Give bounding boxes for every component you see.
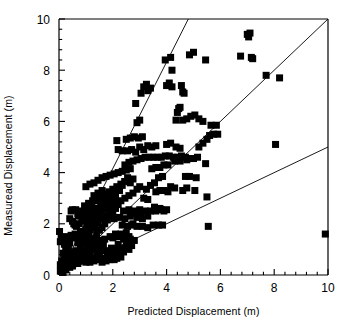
data-point [178,82,185,89]
data-point [203,193,210,200]
x-tick-label: 10 [321,281,335,295]
data-point [272,141,279,148]
y-tick-label: 10 [37,13,51,27]
data-point [202,56,209,63]
data-point [322,231,329,238]
data-point [168,67,175,74]
data-point [193,174,200,181]
data-point [81,202,88,209]
data-point [69,206,76,213]
y-tick-label: 0 [43,269,50,283]
x-axis-label: Predicted Displacement (m) [59,305,328,317]
data-points-group [56,30,329,276]
data-point [125,177,132,184]
data-point [168,83,175,90]
y-tick-label: 8 [43,64,50,78]
data-point [69,263,76,270]
data-point [132,100,139,107]
data-point [113,137,120,144]
data-point [147,85,154,92]
data-point [159,173,166,180]
data-point [127,236,134,243]
data-point [167,54,174,61]
data-point [186,51,193,58]
data-point [181,90,188,97]
data-point [84,219,91,226]
data-point [164,161,171,168]
data-point [99,259,106,266]
y-tick-label: 4 [43,166,50,180]
data-point [72,222,79,229]
data-point [237,53,244,60]
data-point [113,200,120,207]
scatter-plot-svg: 02468100246810 [0,0,348,331]
data-point [214,131,221,138]
x-tick-label: 0 [56,281,63,295]
data-point [163,206,170,213]
data-point [136,183,143,190]
data-point [136,117,143,124]
data-point [116,247,123,254]
data-point [143,186,150,193]
data-point [248,54,255,61]
x-tick-label: 6 [217,281,224,295]
data-point [139,133,146,140]
data-point [205,223,212,230]
data-point [144,196,151,203]
data-point [202,160,209,167]
data-point [263,72,270,79]
y-axis-label: Measuread Displacement (m) [0,0,16,331]
data-point [276,74,283,81]
data-point [117,254,124,261]
x-tick-label: 4 [163,281,170,295]
data-point [213,122,220,129]
data-point [191,187,198,194]
data-point [96,248,103,255]
data-point [245,33,252,40]
data-point [173,117,180,124]
data-point [177,145,184,152]
data-point [56,228,63,235]
x-tick-label: 8 [271,281,278,295]
data-point [144,213,151,220]
data-point [160,187,167,194]
y-tick-label: 6 [43,115,50,129]
data-point [199,118,206,125]
data-point [186,173,193,180]
data-point [144,224,151,231]
data-point [104,197,111,204]
data-point [138,210,145,217]
data-point [68,248,75,255]
data-point [60,250,67,257]
x-tick-label: 2 [109,281,116,295]
data-point [74,240,81,247]
data-point [138,90,145,97]
data-point [179,187,186,194]
data-point [152,142,159,149]
data-point [115,146,122,153]
data-point [194,154,201,161]
data-point [177,104,184,111]
data-point [177,158,184,165]
y-tick-label: 2 [43,217,50,231]
chart-figure: 02468100246810 Measuread Displacement (m… [0,0,348,331]
data-point [151,204,158,211]
data-point [159,222,166,229]
